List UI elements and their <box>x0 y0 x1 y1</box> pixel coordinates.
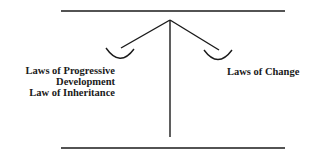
balance-scale-diagram: Laws of Progressive Development Law of I… <box>0 0 322 158</box>
left-label-line-1: Laws of Progressive <box>26 65 115 76</box>
right-beam-arm <box>170 20 219 50</box>
left-pan-label: Laws of Progressive Development Law of I… <box>26 65 115 98</box>
left-pan-icon <box>106 48 134 58</box>
right-pan-icon <box>204 50 232 60</box>
right-label-line-1: Laws of Change <box>227 66 299 77</box>
left-beam-arm <box>121 20 170 48</box>
right-pan-label: Laws of Change <box>227 66 299 77</box>
left-label-line-2: Development <box>26 76 115 87</box>
left-label-line-3: Law of Inheritance <box>26 87 115 98</box>
